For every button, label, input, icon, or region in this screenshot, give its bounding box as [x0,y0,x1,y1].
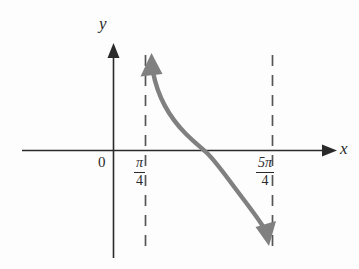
x-axis [22,145,337,157]
function-curve [141,53,277,246]
asymptote-right-denominator: 4 [256,174,274,189]
y-axis-label: y [99,15,107,32]
x-axis-label: x [340,140,348,157]
origin-label: 0 [98,155,106,170]
curve-arrow-up [141,53,163,77]
asymptote-right-numerator: 5π [256,156,274,171]
asymptote-label-left: π 4 [134,156,145,188]
graph-canvas [0,0,359,269]
asymptote-left-numerator: π [134,156,145,171]
asymptote-label-right: 5π 4 [256,156,274,188]
asymptote-left-denominator: 4 [134,174,145,189]
function-graph-figure: y x 0 π 4 5π 4 [0,0,359,269]
